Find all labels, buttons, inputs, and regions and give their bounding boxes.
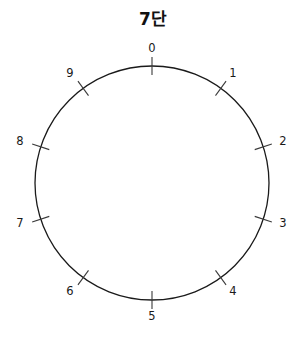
tick-label-2: 2 [279, 136, 286, 148]
tick-mark-9 [78, 81, 89, 96]
tick-mark-1 [215, 81, 226, 96]
tick-label-4: 4 [229, 286, 236, 298]
tick-label-9: 9 [66, 68, 73, 80]
tick-label-6: 6 [66, 286, 73, 298]
tick-label-7: 7 [16, 218, 23, 230]
tick-label-3: 3 [279, 218, 286, 230]
tick-label-5: 5 [148, 311, 155, 323]
tick-label-1: 1 [229, 68, 236, 80]
figure-canvas: 7단 0123456789 [0, 0, 306, 340]
tick-mark-4 [215, 270, 226, 285]
tick-label-8: 8 [16, 136, 23, 148]
tick-label-0: 0 [148, 43, 155, 55]
circle-outline [35, 66, 269, 300]
tick-marks-group [32, 57, 272, 309]
tick-mark-6 [78, 270, 89, 285]
